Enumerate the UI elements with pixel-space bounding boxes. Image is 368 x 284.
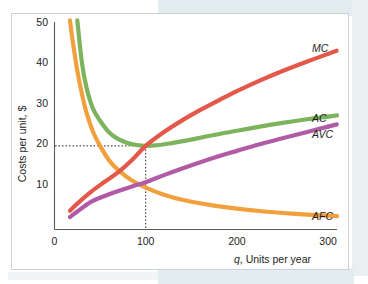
x-axis-title-rest: , Units per year [240,253,312,265]
curve-label-avc: AVC [311,128,333,140]
curve-label-afc: AFC [311,210,333,222]
legend-stub-ac [328,115,337,116]
page-background-band-right [352,0,368,276]
curve-label-mc: MC [312,42,329,54]
legend-stub-avc [328,124,337,126]
page-background-band-bottom-left [8,272,158,280]
x-tick-label-200: 200 [228,235,246,247]
cost-curves-chart: 50 40 30 20 10 0 100 200 300 Costs per u… [12,14,348,269]
y-tick-label-10: 10 [36,178,48,190]
x-axis-title: q, Units per year [234,253,312,265]
figure-card: 50 40 30 20 10 0 100 200 300 Costs per u… [11,13,349,270]
curve-afc [70,20,328,215]
legend-stub-mc [328,51,336,54]
page-background-band-bottom [158,268,354,284]
y-tick-label-30: 30 [36,97,48,109]
curve-label-ac: AC [311,112,327,124]
x-tick-label-0: 0 [52,235,58,247]
x-tick-label-100: 100 [137,235,155,247]
y-tick-label-40: 40 [36,56,48,68]
y-tick-label-20: 20 [36,137,48,149]
curve-ac [77,20,328,145]
x-tick-label-300: 300 [319,235,337,247]
y-tick-label-50: 50 [36,16,48,28]
y-axis-title: Costs per unit, $ [16,106,28,183]
